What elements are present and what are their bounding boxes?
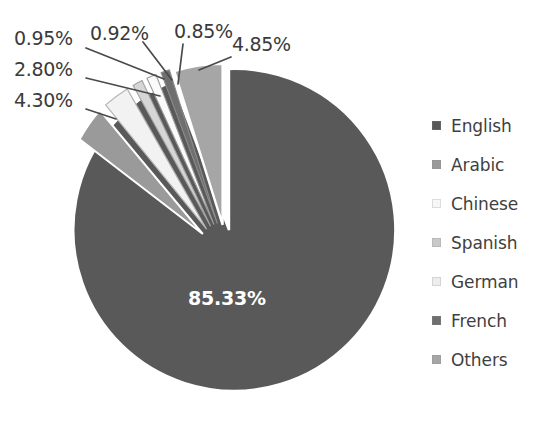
legend-item-spanish[interactable]: Spanish [432, 223, 553, 262]
legend-swatch-icon [432, 238, 441, 247]
legend-swatch-icon [432, 121, 441, 130]
pct-label-arabic: 4.30% [14, 89, 73, 111]
legend-label: Spanish [451, 233, 517, 253]
legend-item-french[interactable]: French [432, 301, 553, 340]
pie-chart-figure: 0.95% 0.92% 0.85% 4.85% 2.80% 4.30% 85.3… [0, 0, 553, 430]
legend-label: French [451, 311, 507, 331]
pct-label-chinese: 2.80% [14, 58, 73, 80]
legend-item-german[interactable]: German [432, 262, 553, 301]
legend-item-arabic[interactable]: Arabic [432, 145, 553, 184]
pct-label-german: 0.92% [90, 22, 149, 44]
pct-label-others: 4.85% [232, 33, 291, 55]
legend-label: Arabic [451, 155, 504, 175]
legend-swatch-icon [432, 316, 441, 325]
legend-label: English [451, 116, 512, 136]
legend-label: Chinese [451, 194, 518, 214]
legend-swatch-icon [432, 355, 441, 364]
leader-line-spanish [86, 48, 164, 79]
legend-item-chinese[interactable]: Chinese [432, 184, 553, 223]
legend-item-others[interactable]: Others [432, 340, 553, 379]
pie-plot-area: 0.95% 0.92% 0.85% 4.85% 2.80% 4.30% 85.3… [0, 0, 430, 430]
pct-label-english: 85.33% [188, 287, 266, 309]
legend-swatch-icon [432, 160, 441, 169]
legend-swatch-icon [432, 199, 441, 208]
legend-label: German [451, 272, 518, 292]
leader-line-german [143, 42, 172, 80]
chart-legend: English Arabic Chinese Spanish German Fr… [432, 106, 553, 379]
pct-label-french: 0.85% [174, 20, 233, 42]
pct-label-spanish: 0.95% [14, 27, 73, 49]
legend-label: Others [451, 350, 508, 370]
legend-item-english[interactable]: English [432, 106, 553, 145]
legend-swatch-icon [432, 277, 441, 286]
